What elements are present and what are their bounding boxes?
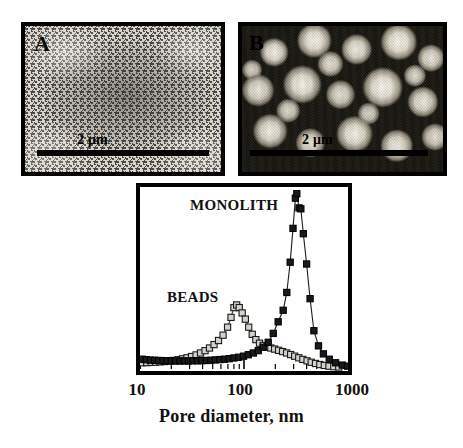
series-annotation-beads: BEADS — [167, 289, 219, 306]
scale-bar-b: 2 μm — [250, 133, 428, 156]
series-annotation-monolith: MONOLITH — [190, 197, 278, 214]
x-tick-label-100: 100 — [210, 380, 270, 400]
micrograph-panel-b: B 2 μm — [238, 22, 447, 176]
panel-label-a: A — [34, 33, 50, 55]
scale-bar-label-a: 2 μm — [37, 133, 209, 148]
micrograph-panel-a: A 2 μm — [21, 22, 225, 176]
panel-label-b: B — [249, 32, 264, 54]
figure-root: A 2 μm B 2 μm MONOLITH BEADS 10 100 1000… — [0, 0, 463, 448]
scale-bar-label-b: 2 μm — [250, 133, 428, 148]
scale-bar-a: 2 μm — [37, 133, 209, 156]
x-axis-title: Pore diameter, nm — [0, 406, 463, 427]
scale-bar-line-b — [250, 150, 428, 156]
x-tick-label-10: 10 — [107, 380, 167, 400]
series-monolith — [140, 191, 348, 370]
scale-bar-line-a — [37, 150, 209, 156]
x-tick-label-1000: 1000 — [321, 380, 383, 400]
plot-canvas — [140, 187, 348, 371]
